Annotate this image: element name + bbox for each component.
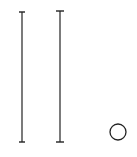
right-vertical-bar [56, 11, 64, 142]
left-vertical-bar [19, 12, 25, 142]
diagram-canvas [0, 0, 137, 157]
small-circle [110, 124, 126, 140]
